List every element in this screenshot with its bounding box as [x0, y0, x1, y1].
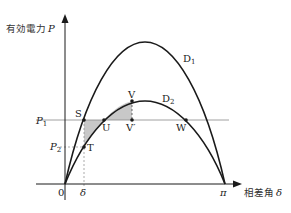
point-t [82, 145, 86, 149]
x-axis-label: 相差角δ [244, 187, 282, 198]
y-axis-label: 有効電力P [6, 23, 55, 34]
y-axis-arrow-icon [62, 14, 69, 23]
label-t: T [87, 142, 94, 153]
p1-label: P1 [35, 115, 47, 128]
label-s: S [75, 108, 82, 119]
point-s [82, 118, 86, 122]
delta-label: δ [80, 187, 86, 198]
label-v-prime: V′ [125, 122, 136, 133]
label-w: W [176, 122, 187, 133]
power-angle-diagram: 有効電力P 相差角δ 0 π δ P1 P2 D1 D2 S T U V V′ … [0, 0, 291, 213]
label-v: V [127, 89, 136, 100]
curve-d1 [65, 42, 225, 184]
x-axis-arrow-icon [233, 181, 242, 188]
d1-label: D1 [183, 53, 196, 66]
label-u: U [102, 122, 110, 133]
p2-label: P2 [49, 141, 61, 154]
d2-label: D2 [162, 93, 175, 106]
pi-label: π [219, 187, 227, 198]
origin-label: 0 [58, 187, 64, 198]
